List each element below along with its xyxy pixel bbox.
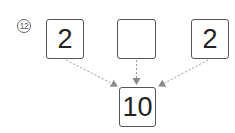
arrow-left	[66, 60, 117, 86]
top-box-3: 2	[191, 19, 229, 59]
top-box-1: 2	[46, 19, 84, 59]
result-box: 10	[119, 87, 156, 127]
top-box-2-blank[interactable]	[117, 19, 156, 59]
arrow-right	[159, 60, 208, 86]
